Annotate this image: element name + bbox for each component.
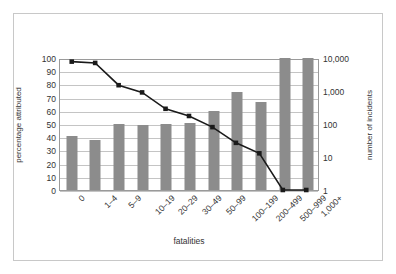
line-marker	[210, 125, 215, 130]
y-axis-right-tick-label: 10,000	[323, 54, 349, 64]
y-axis-left-tick-label: 30	[47, 146, 56, 156]
line-marker	[163, 106, 168, 111]
x-axis-ticks: 01–45–910–1920–2930–4950–99100–199200–49…	[59, 193, 319, 235]
y-axis-right-title: number of incidents	[364, 59, 376, 191]
y-axis-left-tick-label: 60	[47, 107, 56, 117]
x-axis-tick-label: 10–19	[153, 193, 177, 217]
y-axis-left-tick-label: 80	[47, 80, 56, 90]
line-marker	[140, 90, 145, 95]
y-axis-left-tick-label: 0	[51, 186, 56, 196]
y-axis-right-tick-label: 100	[323, 120, 337, 130]
y-axis-left-tick-label: 10	[47, 173, 56, 183]
line-marker	[257, 151, 262, 156]
line-marker	[304, 188, 309, 193]
y-axis-right-tick-label: 1	[323, 186, 328, 196]
gridline	[60, 191, 318, 192]
line-marker	[281, 188, 286, 193]
y-axis-right-tick-label: 10	[323, 153, 332, 163]
line-marker	[116, 83, 121, 88]
line-markers	[69, 59, 308, 192]
x-axis-tick-label: 20–29	[176, 193, 200, 217]
line-marker	[234, 141, 239, 146]
line-path	[72, 62, 307, 190]
y-axis-right-ticks: 1101001,00010,000	[323, 59, 363, 191]
x-axis-tick-label: 1–4	[103, 193, 120, 210]
y-axis-left-tick-label: 70	[47, 94, 56, 104]
x-axis-tick-label: 5–9	[126, 193, 143, 210]
line-marker	[187, 114, 192, 119]
plot-area	[59, 59, 319, 191]
x-axis-tick-label: 30–49	[200, 193, 224, 217]
y-axis-left-tick-label: 40	[47, 133, 56, 143]
x-axis-tick-label: 50–99	[224, 193, 248, 217]
y-axis-left-tick-label: 90	[47, 67, 56, 77]
y-axis-left-title: percentage attributed	[13, 59, 25, 191]
line-marker	[69, 59, 74, 64]
x-axis-title: fatalities	[59, 236, 319, 246]
y-axis-left-tick-label: 50	[47, 120, 56, 130]
chart-frame: percentage attributed 010203040506070809…	[13, 13, 383, 261]
y-axis-right-tick-label: 1,000	[323, 87, 344, 97]
y-axis-left-tick-label: 20	[47, 160, 56, 170]
y-axis-left-tick-label: 100	[42, 54, 56, 64]
line-marker	[93, 61, 98, 66]
y-axis-left-ticks: 0102030405060708090100	[28, 59, 56, 191]
line-series	[60, 59, 318, 190]
x-axis-tick-label: 0	[76, 193, 86, 203]
